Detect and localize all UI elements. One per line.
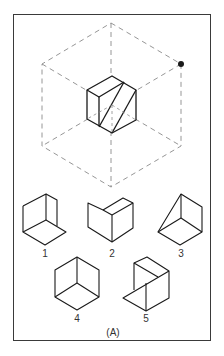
reference-cube bbox=[87, 76, 136, 133]
option-4-label: 4 bbox=[74, 314, 80, 324]
option-3-label: 3 bbox=[178, 249, 184, 259]
option-5-figure[interactable] bbox=[123, 257, 169, 311]
option-1-figure[interactable] bbox=[23, 194, 66, 245]
option-3-figure[interactable] bbox=[158, 194, 202, 245]
diagram-svg bbox=[0, 0, 224, 356]
figure-caption: (A) bbox=[106, 328, 119, 338]
figure-canvas: 1 2 3 4 5 (A) bbox=[0, 0, 224, 356]
marker-dot bbox=[178, 61, 184, 67]
option-5-label: 5 bbox=[143, 314, 149, 324]
option-1-label: 1 bbox=[42, 249, 48, 259]
option-2-figure[interactable] bbox=[88, 198, 133, 242]
option-2-label: 2 bbox=[109, 249, 115, 259]
option-4-figure[interactable] bbox=[55, 257, 99, 310]
